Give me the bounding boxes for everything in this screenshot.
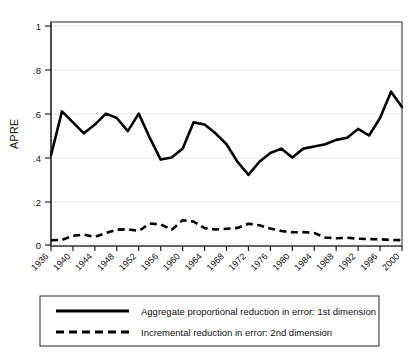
y-tick-label-0.2: .2 — [33, 197, 41, 208]
plot-area — [51, 22, 402, 246]
legend-label-1: Aggregate proportional reduction in erro… — [141, 306, 376, 317]
legend-box: Aggregate proportional reduction in erro… — [40, 296, 379, 346]
legend-label-2: Incremental reduction in error: 2nd dime… — [141, 327, 332, 338]
y-tick-label-0.6: .6 — [33, 109, 41, 120]
y-axis-title: APRE — [8, 119, 20, 149]
y-tick-label-0.0: 0 — [36, 240, 41, 251]
y-tick-label-0.4: .4 — [33, 153, 41, 164]
legend-frame — [40, 296, 379, 346]
y-tick-label-0.8: .8 — [33, 65, 41, 76]
plot-frame — [51, 22, 402, 246]
apre-line-chart: 1 .8 .6 .4 .2 0 APRE 1936194019441948195… — [0, 0, 418, 362]
y-tick-label-1.0: 1 — [36, 21, 41, 32]
chart-figure: 1 .8 .6 .4 .2 0 APRE 1936194019441948195… — [0, 0, 418, 362]
